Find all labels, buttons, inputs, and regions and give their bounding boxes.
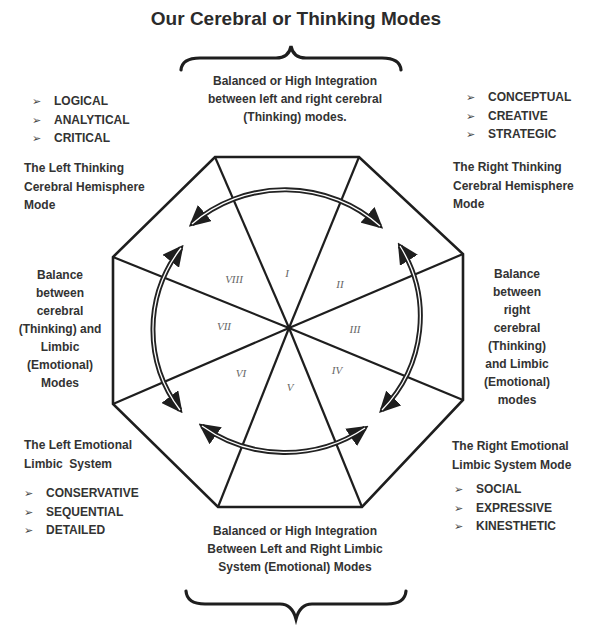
trait-item: ➢SEQUENTIAL (24, 503, 139, 522)
trait-label: EXPRESSIVE (476, 499, 552, 518)
label-line: between (472, 283, 562, 301)
trait-label: CRITICAL (54, 129, 110, 148)
label-line: modes (472, 391, 562, 409)
bottom-brace (186, 591, 406, 619)
trait-label: SOCIAL (476, 480, 521, 499)
left-thinking-traits: ➢LOGICAL ➢ANALYTICAL ➢CRITICAL (32, 92, 130, 148)
right-emotional-traits: ➢SOCIAL ➢EXPRESSIVE ➢KINESTHETIC (454, 480, 556, 536)
label-line: Balance (472, 265, 562, 283)
trait-item: ➢SOCIAL (454, 480, 556, 499)
trait-label: CONSERVATIVE (46, 484, 139, 503)
trait-item: ➢CRITICAL (32, 129, 130, 148)
label-line: Cerebral Hemisphere (24, 178, 145, 197)
label-line: between (10, 284, 110, 302)
label-line: and Limbic (472, 355, 562, 373)
left-emotional-traits: ➢CONSERVATIVE ➢SEQUENTIAL ➢DETAILED (24, 484, 139, 540)
label-line: Mode (453, 195, 574, 214)
label-line: Cerebral Hemisphere (453, 177, 574, 196)
arrow-bullet-icon: ➢ (454, 480, 476, 499)
arrow-bullet-icon: ➢ (32, 129, 54, 148)
sector-label-5: V (287, 381, 295, 393)
label-line: (Emotional) (10, 356, 110, 374)
arrow-bullet-icon: ➢ (454, 517, 476, 536)
label-line: The Right Emotional (452, 437, 571, 456)
right-emotional-label: The Right Emotional Limbic System Mode (452, 437, 571, 474)
label-line: cerebral (10, 302, 110, 320)
label-line: (Thinking) and (10, 320, 110, 338)
left-thinking-label: The Left Thinking Cerebral Hemisphere Mo… (24, 159, 145, 215)
top-integration-caption: Balanced or High Integration between lef… (170, 72, 420, 126)
right-balance-label: Balance between right cerebral (Thinking… (472, 265, 562, 409)
trait-label: STRATEGIC (488, 125, 556, 144)
trait-item: ➢CREATIVE (466, 107, 571, 126)
label-line: Mode (24, 196, 145, 215)
page-title: Our Cerebral or Thinking Modes (0, 8, 592, 30)
label-line: (Emotional) (472, 373, 562, 391)
trait-label: KINESTHETIC (476, 517, 556, 536)
top-brace (181, 46, 401, 70)
trait-label: DETAILED (46, 521, 105, 540)
trait-item: ➢CONSERVATIVE (24, 484, 139, 503)
label-line: The Right Thinking (453, 158, 574, 177)
trait-item: ➢DETAILED (24, 521, 139, 540)
sector-label-3: III (349, 323, 362, 335)
label-line: (Thinking) (472, 337, 562, 355)
label-line: Modes (10, 374, 110, 392)
right-thinking-traits: ➢CONCEPTUAL ➢CREATIVE ➢STRATEGIC (466, 88, 571, 144)
caption-line: Balanced or High Integration (170, 72, 420, 90)
caption-line: between left and right cerebral (170, 90, 420, 108)
left-balance-label: Balance between cerebral (Thinking) and … (10, 266, 110, 392)
caption-line: Balanced or High Integration (165, 522, 425, 540)
caption-line: System (Emotional) Modes (165, 558, 425, 576)
arrow-bullet-icon: ➢ (466, 107, 488, 126)
left-emotional-label: The Left Emotional Limbic System (24, 436, 132, 473)
trait-label: CONCEPTUAL (488, 88, 571, 107)
sector-label-2: II (335, 278, 345, 290)
sector-label-4: IV (331, 364, 344, 376)
label-line: The Left Thinking (24, 159, 145, 178)
arrow-bullet-icon: ➢ (454, 499, 476, 518)
caption-line: (Thinking) modes. (170, 108, 420, 126)
arrow-bullet-icon: ➢ (466, 88, 488, 107)
trait-item: ➢EXPRESSIVE (454, 499, 556, 518)
arrow-bullet-icon: ➢ (24, 503, 46, 522)
trait-item: ➢ANALYTICAL (32, 111, 130, 130)
trait-item: ➢KINESTHETIC (454, 517, 556, 536)
caption-line: Between Left and Right Limbic (165, 540, 425, 558)
trait-item: ➢STRATEGIC (466, 125, 571, 144)
trait-item: ➢LOGICAL (32, 92, 130, 111)
arrow-bullet-icon: ➢ (24, 521, 46, 540)
sector-label-8: VIII (225, 273, 244, 285)
trait-item: ➢CONCEPTUAL (466, 88, 571, 107)
sector-label-1: I (284, 267, 290, 279)
sector-label-6: VI (236, 367, 248, 379)
label-line: Balance (10, 266, 110, 284)
label-line: The Left Emotional (24, 436, 132, 455)
sector-label-7: VII (217, 320, 232, 332)
trait-label: SEQUENTIAL (46, 503, 123, 522)
label-line: Limbic System (24, 455, 132, 474)
right-thinking-label: The Right Thinking Cerebral Hemisphere M… (453, 158, 574, 214)
label-line: right (472, 301, 562, 319)
trait-label: LOGICAL (54, 92, 108, 111)
label-line: Limbic System Mode (452, 456, 571, 475)
label-line: cerebral (472, 319, 562, 337)
arrow-bullet-icon: ➢ (466, 125, 488, 144)
arrow-bullet-icon: ➢ (32, 92, 54, 111)
arrow-bullet-icon: ➢ (32, 111, 54, 130)
label-line: Limbic (10, 338, 110, 356)
trait-label: ANALYTICAL (54, 111, 130, 130)
trait-label: CREATIVE (488, 107, 548, 126)
bottom-integration-caption: Balanced or High Integration Between Lef… (165, 522, 425, 576)
arrow-bullet-icon: ➢ (24, 484, 46, 503)
